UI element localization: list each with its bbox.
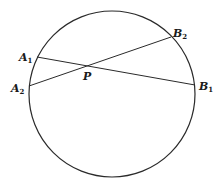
label-a1: A1 bbox=[18, 51, 33, 65]
circle bbox=[29, 11, 195, 177]
label-b1: B1 bbox=[198, 80, 213, 94]
label-p: P bbox=[82, 70, 92, 83]
intersecting-chords-diagram: A1 A2 B2 B1 P bbox=[0, 0, 217, 185]
chord-a2-b2 bbox=[29, 37, 171, 86]
label-a2: A2 bbox=[10, 82, 25, 96]
chord-a1-b1 bbox=[37, 57, 195, 85]
label-b2: B2 bbox=[172, 27, 187, 41]
